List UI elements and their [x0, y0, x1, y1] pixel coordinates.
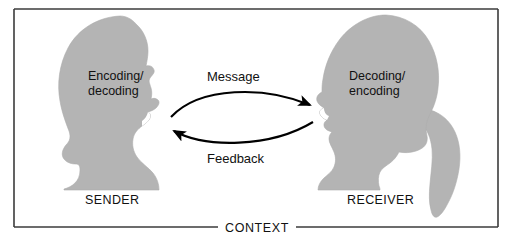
feedback-arrow-label: Feedback	[207, 151, 265, 166]
receiver-role-label: RECEIVER	[347, 193, 414, 207]
communication-model-diagram: Encoding/ decoding SENDER Decoding/ enco…	[0, 0, 513, 241]
sender-process-label-line1: Encoding/	[88, 69, 144, 83]
context-label: CONTEXT	[225, 221, 289, 235]
receiver-process-label-line2: encoding	[349, 84, 400, 98]
sender-role-label: SENDER	[85, 193, 140, 207]
sender-process-label-line2: decoding	[88, 84, 139, 98]
diagram-canvas: Encoding/ decoding SENDER Decoding/ enco…	[0, 0, 513, 241]
receiver-process-label-line1: Decoding/	[349, 69, 406, 83]
message-arrow-label: Message	[207, 69, 260, 84]
